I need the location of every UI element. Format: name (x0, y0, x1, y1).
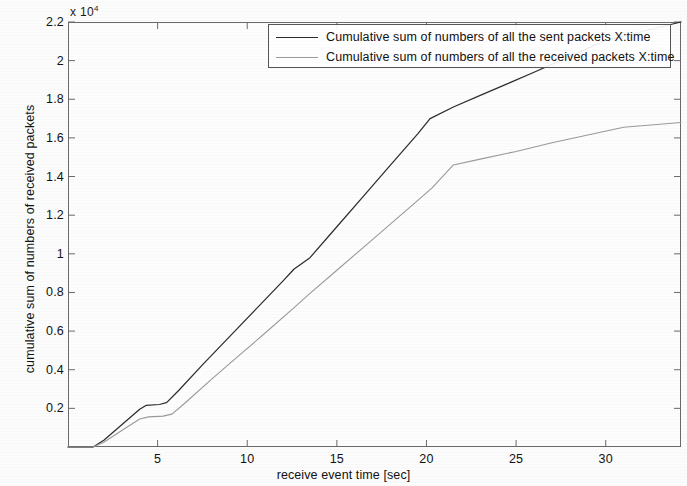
legend-label-sent: Cumulative sum of numbers of all the sen… (326, 30, 651, 44)
legend: Cumulative sum of numbers of all the sen… (268, 24, 671, 68)
figure-canvas: x 104 0.20.40.60.811.21.41.61.822.2 5101… (0, 0, 687, 486)
legend-line-swatch-received (276, 52, 318, 62)
x-tick-label: 10 (240, 452, 254, 466)
y-tick-label: 2 (6, 54, 64, 68)
x-tick-label: 25 (509, 452, 523, 466)
legend-entry-received: Cumulative sum of numbers of all the rec… (269, 47, 670, 67)
legend-line-swatch-sent (276, 32, 318, 42)
x-tick-label: 5 (154, 452, 161, 466)
y-tick-label: 2.2 (6, 15, 64, 29)
x-tick-label: 30 (599, 452, 613, 466)
y-axis-title: cumulative sum of numbers of received pa… (23, 69, 37, 409)
y-axis-exponent-base: x 10 (70, 5, 94, 19)
x-tick-label: 15 (330, 452, 344, 466)
legend-label-received: Cumulative sum of numbers of all the rec… (326, 50, 675, 64)
x-axis-title: receive event time [sec] (0, 468, 687, 482)
y-axis-exponent-power: 4 (94, 4, 99, 13)
y-axis-exponent: x 104 (70, 4, 99, 19)
x-tick-label: 20 (419, 452, 433, 466)
legend-entry-sent: Cumulative sum of numbers of all the sen… (269, 27, 670, 47)
plot-area (68, 22, 681, 447)
